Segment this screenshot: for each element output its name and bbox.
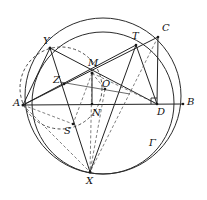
geometry-canvas — [0, 0, 207, 200]
circle-inner-large — [32, 32, 174, 174]
point-N — [91, 103, 94, 106]
point-D — [156, 103, 159, 106]
point-S — [72, 123, 75, 126]
segment-A-S — [23, 105, 73, 124]
point-X — [89, 171, 92, 174]
label-A: A — [13, 98, 20, 108]
point-A — [22, 104, 25, 107]
label-D: D — [157, 107, 165, 117]
segment-A-T — [23, 45, 136, 105]
label-gamma: Γ — [149, 138, 156, 148]
point-C — [157, 36, 160, 39]
point-B — [182, 103, 185, 106]
label-T: T — [132, 31, 139, 41]
label-M: M — [88, 58, 98, 68]
label-Y: Y — [43, 36, 50, 46]
point-T — [135, 44, 138, 47]
label-X: X — [86, 176, 93, 186]
segment-Y-X — [50, 48, 90, 172]
point-Z — [63, 83, 66, 86]
segment-M-S — [73, 73, 92, 124]
label-C: C — [162, 23, 170, 33]
solid-segment-group — [23, 37, 183, 172]
label-N: N — [92, 108, 101, 118]
segment-Z-O — [60, 82, 130, 94]
label-S: S — [64, 126, 71, 136]
label-O: O — [102, 79, 110, 89]
label-B: B — [187, 97, 194, 107]
point-M — [91, 72, 94, 75]
segment-C-D — [157, 37, 158, 104]
point-Y — [49, 47, 52, 50]
segment-A-B — [23, 104, 183, 105]
label-Z: Z — [53, 75, 60, 85]
geometry-figure: A B C D M N O S T X Y Z Γ — [0, 0, 207, 200]
